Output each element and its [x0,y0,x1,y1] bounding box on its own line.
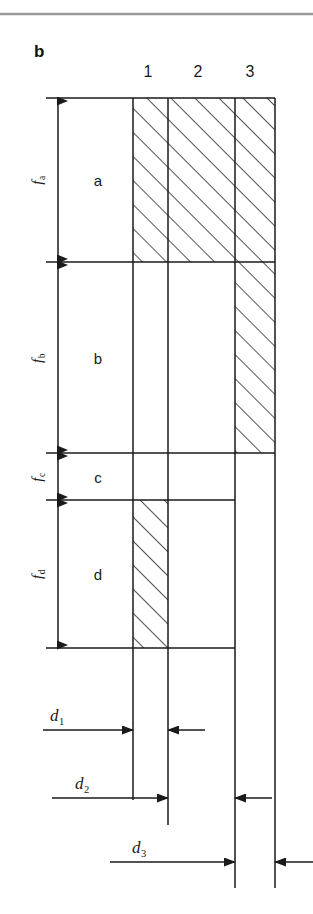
d2-symbol: d [75,774,84,793]
dimension-label-fd: fd [30,563,45,587]
cell-a3 [235,98,275,262]
cell-a1 [133,98,168,262]
fb-subscript: b [36,354,46,359]
zone-label-b: b [88,351,108,366]
figure-root: b 1 2 3 a b c d fa fb fc fd d1 d2 d3 [0,0,313,914]
cell-d1 [133,500,168,648]
hatched-cells [133,98,275,648]
zone-label-c: c [88,470,108,485]
zone-label-d: d [88,567,108,582]
dimension-label-fb: fb [30,347,45,371]
fa-subscript: a [36,176,46,180]
cell-b3 [235,262,275,453]
d2-subscript: 2 [84,784,89,795]
fd-subscript: d [36,570,46,575]
column-header-1: 1 [137,64,159,80]
column-header-3: 3 [239,64,261,80]
zone-label-a: a [88,173,108,188]
d3-symbol: d [132,838,141,857]
dimension-label-d2: d2 [75,775,89,792]
panel-label: b [34,43,44,60]
dimension-label-d3: d3 [132,839,146,856]
fc-subscript: c [36,473,46,477]
dimension-label-fc: fc [30,466,45,490]
cell-a2 [168,98,235,262]
d3-subscript: 3 [141,848,146,859]
fa-symbol: f [29,181,45,185]
dimension-label-fa: fa [30,169,45,193]
d1-subscript: 1 [59,716,64,727]
column-header-2: 2 [187,64,209,80]
fc-symbol: f [29,478,45,482]
fb-symbol: f [29,359,45,363]
schematic-svg [0,0,313,914]
d1-symbol: d [50,706,59,725]
fd-symbol: f [29,575,45,579]
dimension-label-d1: d1 [50,707,64,724]
horizontal-dimension-arrows [43,730,313,862]
